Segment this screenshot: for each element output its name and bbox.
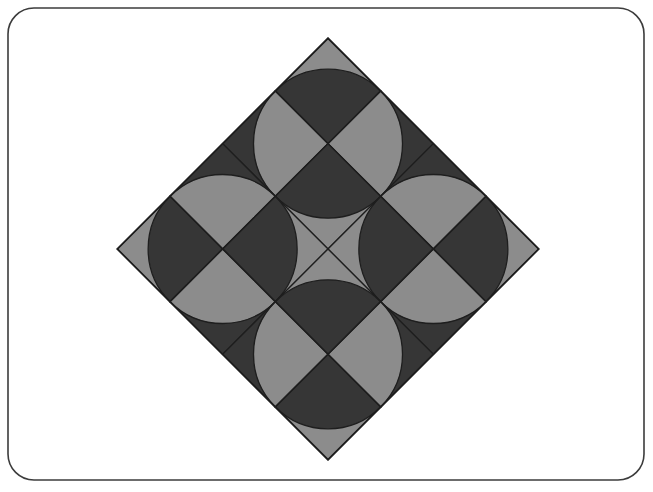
page-root bbox=[0, 0, 653, 492]
tiling-figure bbox=[0, 0, 653, 492]
rotated-grid bbox=[117, 38, 538, 459]
tile-grid bbox=[117, 38, 538, 459]
